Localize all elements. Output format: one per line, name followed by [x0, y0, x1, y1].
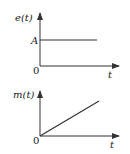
- y-axis-label: e(t): [15, 12, 33, 23]
- x-axis-label: t: [110, 139, 115, 150]
- signal-diagram: e(t) A 0 t m(t) 0 t: [0, 0, 130, 154]
- origin-label: 0: [33, 65, 39, 76]
- origin-label: 0: [33, 135, 39, 146]
- level-label: A: [30, 35, 38, 46]
- x-axis-label: t: [108, 69, 113, 80]
- ramp-signal-line: [40, 101, 99, 136]
- plot-m-t: m(t) 0 t: [13, 89, 119, 150]
- y-axis-label: m(t): [13, 89, 34, 100]
- plot-e-t: e(t) A 0 t: [15, 12, 119, 80]
